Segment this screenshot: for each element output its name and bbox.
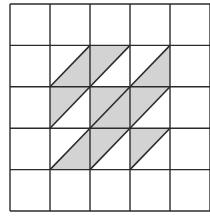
shaded-grid-diagram bbox=[0, 0, 210, 222]
